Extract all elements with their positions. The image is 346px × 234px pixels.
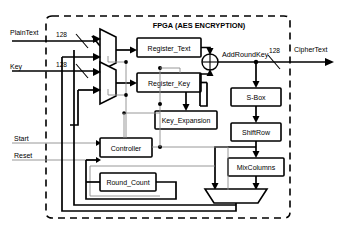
diagram-title: FPGA (AES ENCRYPTION) xyxy=(153,21,246,30)
operator-label-addroundkey: AddRoundKey xyxy=(222,50,269,59)
junction-ctrl-key xyxy=(124,93,128,97)
junction-ctrl-plaintext xyxy=(124,60,128,64)
block-label-register-text: Register_Text xyxy=(148,45,191,53)
block-label-sbox: S-Box xyxy=(246,94,266,101)
block-mixcolumns: MixColumns xyxy=(228,158,284,176)
operator-addroundkey xyxy=(202,54,218,70)
mux-feedback xyxy=(205,189,267,203)
input-label-plaintext: PlainText xyxy=(10,29,38,36)
block-register-text: Register_Text xyxy=(137,38,201,57)
input-label-key: Key xyxy=(10,63,23,71)
output-label-ciphertext: CipherText xyxy=(294,46,328,54)
junction-ctrl-keyexp xyxy=(158,102,162,106)
block-label-round-count: Round_Count xyxy=(106,179,149,187)
block-label-shiftrow: ShiftRow xyxy=(242,129,271,136)
block-key-expansion: Key_Expansion xyxy=(155,111,217,129)
block-label-key-expansion: Key_Expansion xyxy=(162,117,211,125)
block-label-controller: Controller xyxy=(111,145,142,152)
block-controller: Controller xyxy=(100,138,152,157)
input-label-start: Start xyxy=(14,135,29,142)
block-round-count: Round_Count xyxy=(100,173,156,191)
aes-fpga-block-diagram: FPGA (AES ENCRYPTION) PlainText 128 Key … xyxy=(0,0,346,234)
block-label-register-key: Register_Key xyxy=(148,80,191,88)
input-label-reset: Reset xyxy=(14,152,32,159)
mux-key xyxy=(93,62,137,104)
input-key-wire xyxy=(12,64,96,78)
block-label-mixcolumns: MixColumns xyxy=(237,164,276,171)
output-width-ciphertext: 128 xyxy=(269,47,280,54)
block-register-key: Register_Key xyxy=(137,73,201,92)
block-shiftrow: ShiftRow xyxy=(231,123,281,141)
input-width-plaintext: 128 xyxy=(56,31,67,38)
block-sbox: S-Box xyxy=(231,88,281,106)
